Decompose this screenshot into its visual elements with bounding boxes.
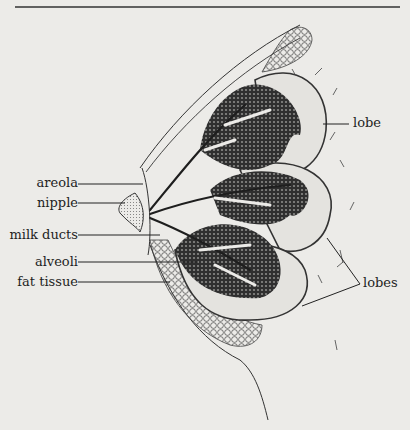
label-lobes: lobes <box>363 276 398 290</box>
nipple <box>119 193 143 232</box>
leader-lobes-upper <box>327 238 360 284</box>
diagram-stage: areola nipple milk ducts alveoli fat tis… <box>0 0 410 430</box>
upper-fat-cluster <box>262 27 312 72</box>
label-areola: areola <box>0 176 78 190</box>
label-alveoli: alveoli <box>0 255 78 269</box>
breast-anatomy-illustration <box>0 0 410 430</box>
label-lobe: lobe <box>353 116 381 130</box>
label-fat-tissue: fat tissue <box>0 275 78 289</box>
label-milk-ducts: milk ducts <box>0 228 78 242</box>
leader-lobes-lower <box>302 284 360 306</box>
label-nipple: nipple <box>0 196 78 210</box>
